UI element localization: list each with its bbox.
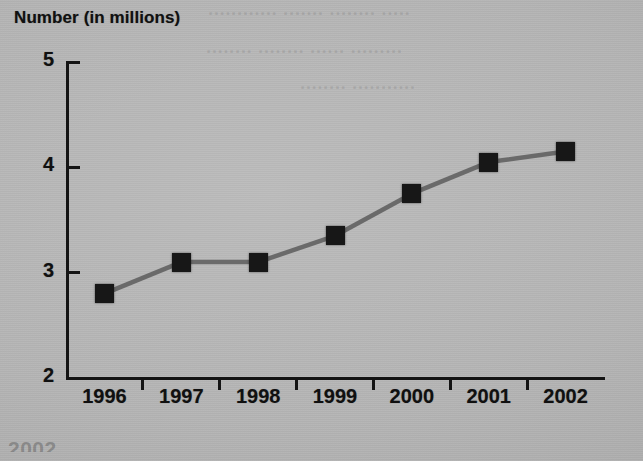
chart-figure: ............ ....... ........ ..... ....…	[0, 0, 643, 461]
x-axis-label-1997: 1997	[146, 385, 216, 408]
x-axis-label-2001: 2001	[454, 385, 524, 408]
ghost-text-line-1: ............ ....... ........ .....	[208, 0, 410, 20]
data-point-2000	[402, 184, 421, 203]
ghost-text-line-2: ........ ........ ...... .........	[206, 36, 402, 58]
x-axis-label-1999: 1999	[300, 385, 370, 408]
x-axis-tick-6	[526, 377, 529, 390]
data-point-1998	[249, 253, 268, 272]
y-axis-tick-3	[66, 271, 80, 274]
x-axis-tick-3	[295, 377, 298, 390]
ghost-text-line-3: ........ ...........	[300, 72, 416, 94]
x-axis-tick-1	[141, 377, 144, 390]
chart-title: Number (in millions)	[14, 8, 180, 28]
x-axis-label-1998: 1998	[223, 385, 293, 408]
data-point-1996	[95, 284, 114, 303]
x-axis-line	[66, 377, 605, 380]
ghost-text-bottom: 2002	[8, 437, 57, 461]
y-axis-line	[66, 62, 69, 380]
x-axis-label-2002: 2002	[531, 385, 601, 408]
data-point-1999	[326, 226, 345, 245]
y-axis-label-5: 5	[18, 48, 54, 71]
y-axis-tick-5	[66, 61, 80, 64]
y-axis-label-3: 3	[18, 259, 54, 282]
x-axis-tick-5	[449, 377, 452, 390]
x-axis-label-1996: 1996	[69, 385, 139, 408]
x-axis-tick-2	[218, 377, 221, 390]
y-axis-label-2: 2	[18, 364, 54, 387]
x-axis-tick-4	[372, 377, 375, 390]
y-axis-tick-4	[66, 166, 80, 169]
y-axis-label-4: 4	[18, 153, 54, 176]
data-point-2001	[479, 153, 498, 172]
data-point-2002	[556, 142, 575, 161]
data-point-1997	[172, 253, 191, 272]
x-axis-label-2000: 2000	[377, 385, 447, 408]
